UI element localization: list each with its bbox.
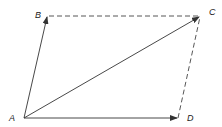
- vector-ab: [24, 17, 47, 118]
- dashed-line-dc: [178, 17, 200, 118]
- label-d: D: [187, 113, 194, 123]
- parallelogram-diagram: B C A D: [0, 0, 222, 127]
- vector-ac: [24, 17, 199, 118]
- label-b: B: [35, 10, 41, 20]
- label-a: A: [8, 113, 15, 123]
- label-c: C: [209, 7, 216, 17]
